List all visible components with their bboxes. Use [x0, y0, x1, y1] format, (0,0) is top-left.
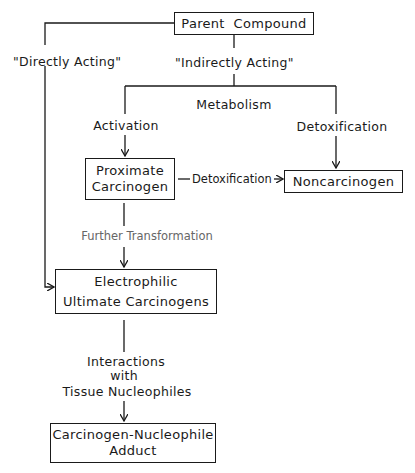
detoxification-branch-label: Detoxification [297, 119, 388, 134]
adduct-line2: Adduct [109, 443, 156, 459]
electrophilic-line2: Ultimate Carcinogens [63, 294, 209, 310]
proximate-carcinogen-node: Proximate Carcinogen [85, 158, 175, 200]
electrophilic-line1: Electrophilic [94, 274, 177, 290]
detoxification-mid-label: Detoxification [192, 172, 272, 187]
adduct-line1: Carcinogen-Nucleophile [52, 427, 213, 443]
directly-acting-label: "Directly Acting" [13, 54, 121, 69]
directly-acting-connector [45, 23, 174, 45]
further-transformation-label: Further Transformation [81, 229, 213, 244]
proximate-line2: Carcinogen [92, 179, 169, 195]
parent-compound-node: Parent Compound [174, 12, 314, 35]
interactions-line2: with [110, 368, 138, 383]
noncarcinogen-node: Noncarcinogen [284, 170, 403, 193]
indirectly-acting-label: "Indirectly Acting" [175, 55, 294, 70]
parent-compound-label: Parent Compound [181, 16, 306, 32]
carcinogen-nucleophile-adduct-node: Carcinogen-Nucleophile Adduct [50, 423, 216, 463]
electrophilic-ultimate-carcinogens-node: Electrophilic Ultimate Carcinogens [55, 269, 217, 314]
interactions-line1: Interactions [87, 354, 165, 369]
proximate-line1: Proximate [96, 163, 164, 179]
activation-label: Activation [93, 118, 159, 133]
metabolism-label: Metabolism [196, 97, 271, 112]
noncarcinogen-label: Noncarcinogen [293, 174, 394, 190]
interactions-line3: Tissue Nucleophiles [63, 384, 192, 399]
